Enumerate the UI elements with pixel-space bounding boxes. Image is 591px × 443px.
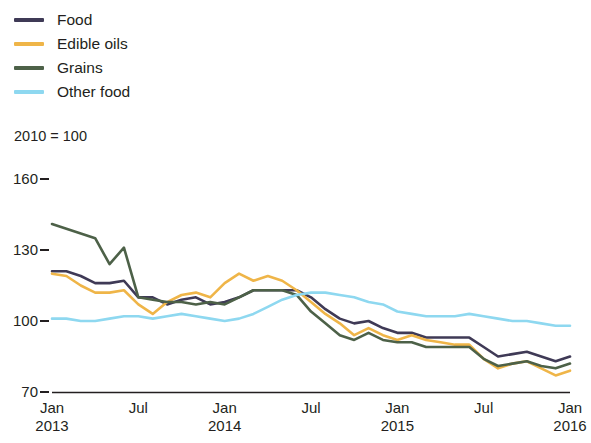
x-tick-label-0: Jan2013: [22, 399, 82, 436]
x-tick-label-5: Jul: [454, 399, 514, 417]
x-tick-year: 2015: [367, 417, 427, 435]
x-tick-year: 2016: [540, 417, 591, 435]
x-tick-label-3: Jul: [281, 399, 341, 417]
x-tick-label-4: Jan2015: [367, 399, 427, 436]
y-tick-dash-160: [40, 178, 49, 180]
x-tick-year: 2014: [195, 417, 255, 435]
x-tick-label-2: Jan2014: [195, 399, 255, 436]
x-tick-year: 2013: [22, 417, 82, 435]
series-group: [52, 224, 570, 375]
y-tick-dash-100: [40, 320, 49, 322]
x-tick-month: Jul: [474, 399, 493, 416]
y-tick-label-160: 160: [4, 170, 38, 187]
y-tick-dash-130: [40, 249, 49, 251]
y-tick-dash-70: [40, 391, 49, 393]
x-tick-label-6: Jan2016: [540, 399, 591, 436]
y-tick-label-100: 100: [4, 312, 38, 329]
x-tick-month: Jul: [129, 399, 148, 416]
x-tick-month: Jul: [301, 399, 320, 416]
y-tick-label-130: 130: [4, 241, 38, 258]
x-tick-month: Jan: [385, 399, 409, 416]
x-tick-label-1: Jul: [108, 399, 168, 417]
x-tick-month: Jan: [558, 399, 582, 416]
x-tick-month: Jan: [40, 399, 64, 416]
y-tick-label-70: 70: [4, 383, 38, 400]
x-tick-month: Jan: [213, 399, 237, 416]
